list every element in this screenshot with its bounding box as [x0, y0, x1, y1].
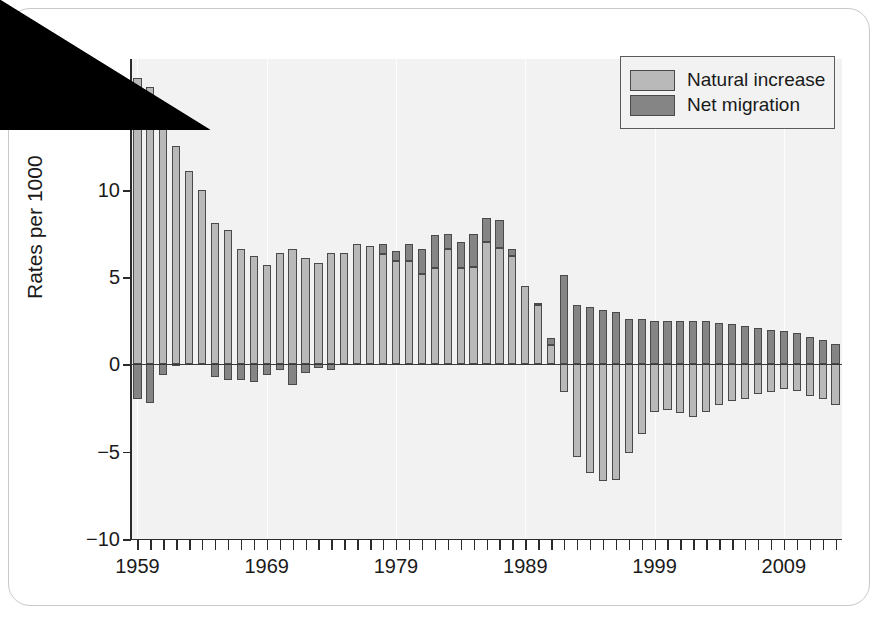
bar-segment-net-migration [457, 242, 465, 268]
bar-segment-natural-increase [198, 190, 206, 365]
bar-segment-net-migration [405, 244, 413, 261]
x-tick-mark [732, 539, 733, 550]
y-tick-label: 10 [98, 178, 120, 201]
bar-segment-natural-increase [288, 249, 296, 364]
bar-segment-natural-increase [250, 256, 258, 364]
bar-segment-natural-increase [638, 364, 646, 434]
y-tick-label: 0 [109, 353, 120, 376]
bar-segment-net-migration [754, 328, 762, 365]
x-tick-mark [461, 539, 462, 550]
x-tick-mark [655, 539, 656, 550]
bar-segment-net-migration [612, 312, 620, 364]
x-tick-mark [745, 539, 746, 550]
bar-segment-natural-increase [237, 249, 245, 364]
bar-segment-net-migration [495, 220, 503, 248]
x-tick-mark [254, 539, 255, 550]
bar-segment-natural-increase [431, 268, 439, 364]
bar-segment-net-migration [392, 251, 400, 261]
bar-segment-net-migration [702, 321, 710, 365]
x-tick-mark [370, 539, 371, 550]
y-tick-mark [123, 103, 131, 105]
x-tick-mark [512, 539, 513, 550]
x-tick-mark [241, 539, 242, 550]
x-tick-mark [771, 539, 772, 550]
bar-segment-natural-increase [806, 364, 814, 395]
bar-segment-natural-increase [831, 364, 839, 404]
bar-segment-natural-increase [276, 253, 284, 365]
bar-segment-natural-increase [314, 263, 322, 364]
bar-segment-net-migration [715, 323, 723, 365]
bar-segment-net-migration [625, 319, 633, 364]
bar-segment-net-migration [728, 324, 736, 364]
bar-segment-net-migration [831, 344, 839, 365]
y-tick-label: −5 [97, 440, 120, 463]
bar-segment-net-migration [560, 275, 568, 364]
bar-segment-natural-increase [625, 364, 633, 453]
x-tick-label: 1989 [503, 555, 548, 578]
bar-segment-net-migration [689, 321, 697, 365]
bar-segment-natural-increase [366, 246, 374, 365]
bar-segment-natural-increase [663, 364, 671, 409]
figure-frame: Rates per 1000 151050−5−10 1959196919791… [8, 8, 870, 606]
bar-segment-net-migration [237, 364, 245, 380]
bar-segment-natural-increase [444, 249, 452, 364]
bar-segment-natural-increase [715, 364, 723, 404]
bar-segment-natural-increase [327, 253, 335, 365]
x-tick-mark [706, 539, 707, 550]
bar-segment-natural-increase [457, 268, 465, 364]
legend-swatch-natural-increase [630, 70, 675, 91]
y-axis-title: Rates per 1000 [23, 155, 47, 299]
x-tick-mark [137, 539, 138, 550]
x-tick-mark [163, 539, 164, 550]
bar-segment-natural-increase [793, 364, 801, 390]
bar-segment-natural-increase [676, 364, 684, 413]
x-tick-mark [577, 539, 578, 550]
bar-segment-natural-increase [780, 364, 788, 388]
x-tick-mark [331, 539, 332, 550]
bar-segment-net-migration [767, 330, 775, 365]
x-tick-mark [357, 539, 358, 550]
x-tick-mark [267, 539, 268, 550]
bar-segment-natural-increase [767, 364, 775, 392]
legend-label-net-migration: Net migration [687, 94, 800, 116]
plot-area: 151050−5−10 195919691979198919992009 [131, 59, 842, 539]
bar-segment-natural-increase [534, 305, 542, 364]
bar-segment-natural-increase [482, 242, 490, 364]
bar-segment-natural-increase [133, 78, 141, 364]
x-tick-mark [409, 539, 410, 550]
bar-segment-net-migration [573, 305, 581, 364]
bar-segment-net-migration [250, 364, 258, 381]
x-tick-mark [616, 539, 617, 550]
x-tick-mark [435, 539, 436, 550]
bars-layer [131, 59, 842, 539]
y-tick-mark [123, 190, 131, 192]
bar-segment-natural-increase [301, 258, 309, 364]
x-tick-label: 2009 [762, 555, 807, 578]
x-tick-mark [280, 539, 281, 550]
bar-segment-net-migration [444, 234, 452, 250]
bar-segment-natural-increase [340, 253, 348, 365]
bar-segment-natural-increase [495, 248, 503, 365]
y-tick-mark [123, 452, 131, 454]
x-tick-mark [448, 539, 449, 550]
legend-label-natural-increase: Natural increase [687, 69, 825, 91]
x-tick-mark [215, 539, 216, 550]
x-tick-mark [396, 539, 397, 550]
bar-segment-natural-increase [819, 364, 827, 399]
x-tick-mark [293, 539, 294, 550]
x-tick-mark [150, 539, 151, 550]
bar-segment-natural-increase [728, 364, 736, 401]
bar-segment-net-migration [741, 326, 749, 364]
bar-segment-natural-increase [599, 364, 607, 481]
x-tick-mark [383, 539, 384, 550]
x-tick-mark [667, 539, 668, 550]
bar-segment-natural-increase [211, 223, 219, 364]
x-tick-mark [680, 539, 681, 550]
bar-segment-net-migration [806, 337, 814, 365]
y-tick-mark [123, 277, 131, 279]
x-tick-mark [810, 539, 811, 550]
x-tick-label: 1969 [244, 555, 289, 578]
legend-item-natural-increase: Natural increase [630, 69, 823, 91]
x-tick-mark [836, 539, 837, 550]
bar-segment-natural-increase [392, 261, 400, 364]
